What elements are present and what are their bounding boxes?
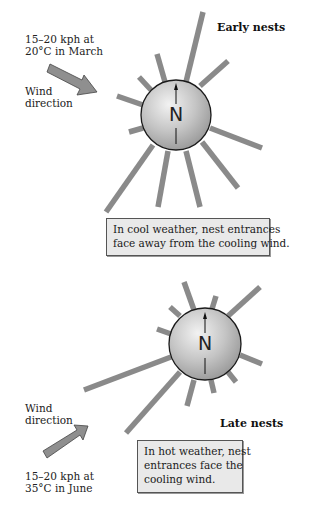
wind-arrow-up-right-icon [43,425,88,458]
late-wind-label-line2: direction [25,414,73,427]
late-note-line2: entrances face the [144,458,237,472]
early-wind-label-line2: direction [25,97,73,110]
early-nests-title: Early nests [217,21,285,34]
late-nests-title: Late nests [220,417,283,430]
early-note-line2: face away from the cooling wind. [113,236,264,250]
compass-letter-early: N [169,104,183,124]
late-wind-speed-line2: 35°C in June [25,482,92,495]
wind-arrow-down-right-icon [47,64,97,95]
early-wind-speed-line2: 20°C in March [25,45,103,58]
early-note-line1: In cool weather, nest entrances [113,222,264,236]
late-note-line1: In hot weather, nest [144,444,237,458]
late-note-line3: cooling wind. [144,472,237,486]
early-nests-note-box: In cool weather, nest entrances face awa… [106,218,270,256]
compass-letter-late: N [198,333,212,353]
late-nests-note-box: In hot weather, nest entrances face the … [137,440,243,493]
